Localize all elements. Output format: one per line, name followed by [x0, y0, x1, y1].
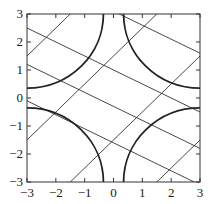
x-tick-label: 0 — [110, 185, 117, 200]
x-tick-label: −1 — [78, 185, 92, 200]
y-tick-label: 2 — [17, 34, 24, 49]
curve-line — [0, 14, 212, 126]
plot-area — [0, 0, 212, 204]
x-tick-label: 1 — [139, 185, 146, 200]
plot-frame — [27, 14, 200, 182]
curve-line — [0, 0, 212, 84]
curve-line — [0, 28, 212, 204]
y-tick-label: 1 — [17, 62, 24, 77]
curve-line — [0, 0, 212, 168]
y-tick-label: 0 — [17, 90, 24, 105]
x-tick-label: −2 — [49, 185, 63, 200]
x-tick-label: 3 — [197, 185, 204, 200]
curve-line — [0, 0, 212, 67]
y-tick-label: 3 — [17, 6, 24, 21]
y-tick-label: −2 — [9, 146, 23, 161]
chart: −3−2−10123−3−2−10123 — [0, 0, 212, 204]
arc — [124, 0, 212, 88]
x-tick-label: 2 — [168, 185, 175, 200]
y-tick-label: −1 — [9, 118, 23, 133]
y-tick-label: −3 — [9, 174, 23, 189]
arc — [0, 0, 103, 88]
curve-line — [0, 50, 212, 162]
